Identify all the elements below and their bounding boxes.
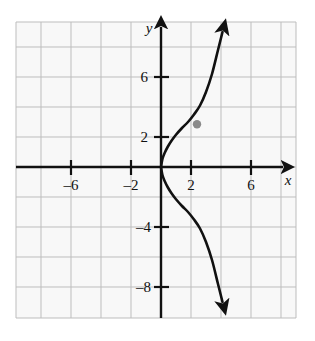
x-axis-label: x xyxy=(284,172,292,188)
y-tick-label-2: 2 xyxy=(141,129,149,145)
graph-figure: –6 –2 2 6 6 2 –4 –8 x y xyxy=(0,0,315,341)
x-tick-label-2: 2 xyxy=(187,177,195,193)
y-tick-label-neg4: –4 xyxy=(135,219,152,235)
x-tick-label-6: 6 xyxy=(247,177,255,193)
y-tick-label-6: 6 xyxy=(141,69,149,85)
coordinate-plane: –6 –2 2 6 6 2 –4 –8 x y xyxy=(0,0,315,341)
x-tick-label-neg2: –2 xyxy=(123,177,139,193)
marked-point xyxy=(193,120,201,128)
x-tick-label-neg6: –6 xyxy=(63,177,80,193)
y-axis-label: y xyxy=(144,20,153,36)
y-tick-label-neg8: –8 xyxy=(135,279,151,295)
plot-area xyxy=(16,22,296,318)
